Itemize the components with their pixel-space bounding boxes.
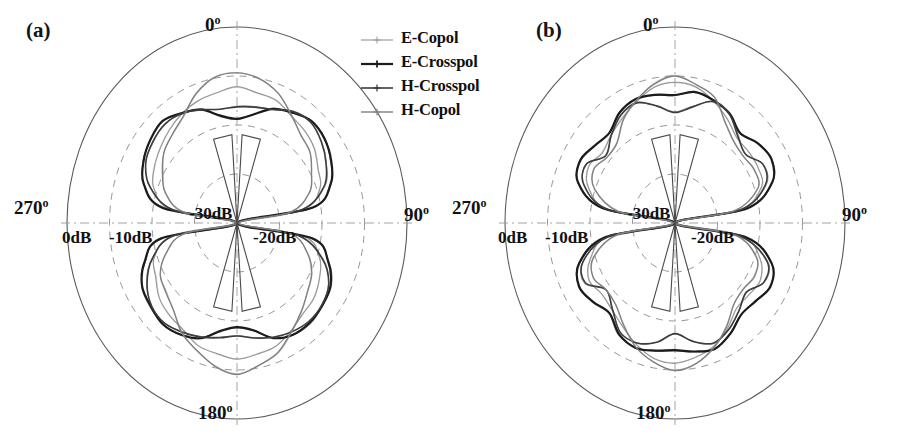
radial-label-a-10db: -10dB [109, 228, 152, 248]
legend-line-marker-icon [360, 32, 394, 44]
angle-label-a-270deg: 270o [14, 197, 49, 219]
radial-label-a-30db: -30dB [189, 204, 232, 224]
radial-label-b-20db: -20dB [691, 228, 734, 248]
legend-item: H-Copol [360, 98, 520, 122]
angle-label-b-180deg: 180o [636, 402, 671, 424]
radial-label-a-20db: -20dB [253, 228, 296, 248]
legend-line-marker-icon [360, 56, 394, 68]
angle-label-a-90deg: 90o [404, 204, 429, 226]
panel-label-a: (a) [26, 18, 51, 43]
null-spike [237, 135, 260, 223]
legend-item-label: H-Copol [401, 100, 460, 120]
legend-item: E-Copol [360, 26, 520, 50]
radial-label-b-30db: -30dB [627, 204, 670, 224]
antenna-radiation-pattern-figure: (a) 0o 90o 180o 270o 0dB -10dB -30dB -20… [0, 0, 909, 446]
polar-plot-b [499, 21, 851, 425]
legend: E-CopolE-CrosspolH-CrosspolH-Copol [360, 26, 520, 122]
radial-label-b-10db: -10dB [545, 228, 588, 248]
angle-label-b-270deg: 270o [452, 197, 487, 219]
legend-item: E-Crosspol [360, 50, 520, 74]
angle-label-b-90deg: 90o [842, 204, 867, 226]
null-spike [652, 223, 675, 311]
null-spike [214, 223, 237, 311]
legend-line-marker-icon [360, 80, 394, 92]
radial-label-a-0db: 0dB [62, 228, 91, 248]
legend-item-label: E-Crosspol [401, 52, 478, 72]
angle-label-a-180deg: 180o [198, 402, 233, 424]
legend-item-label: E-Copol [401, 28, 458, 48]
angle-label-a-0deg: 0o [205, 14, 221, 36]
legend-line-marker-icon [360, 104, 394, 116]
radial-label-b-0db: 0dB [498, 228, 527, 248]
angle-label-b-0deg: 0o [643, 14, 659, 36]
legend-item-label: H-Crosspol [401, 76, 479, 96]
null-spike [675, 135, 698, 223]
legend-item: H-Crosspol [360, 74, 520, 98]
panel-label-b: (b) [536, 18, 562, 43]
